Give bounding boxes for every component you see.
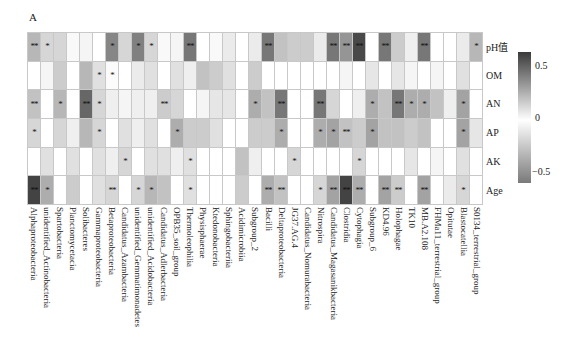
panel-label: A bbox=[29, 11, 37, 23]
heatmap-cell bbox=[223, 90, 235, 118]
heatmap-cell bbox=[470, 176, 482, 204]
heatmap-cell: * bbox=[41, 176, 53, 204]
heatmap-cell bbox=[67, 176, 79, 204]
heatmap-cell: * bbox=[314, 176, 326, 204]
heatmap-cell: ** bbox=[353, 176, 365, 204]
heatmap-cell bbox=[418, 119, 430, 147]
heatmap-cell bbox=[288, 119, 300, 147]
heatmap-cell bbox=[197, 33, 209, 61]
heatmap-grid: ****************************************… bbox=[27, 32, 483, 205]
heatmap-cell bbox=[327, 148, 339, 176]
heatmap-cell bbox=[262, 148, 274, 176]
heatmap-cell: ** bbox=[340, 33, 352, 61]
heatmap-cell bbox=[444, 62, 456, 90]
heatmap-cell: ** bbox=[327, 33, 339, 61]
column-label: Subgroup_2 bbox=[248, 207, 261, 327]
heatmap-cell bbox=[366, 62, 378, 90]
heatmap-cell bbox=[444, 90, 456, 118]
heatmap-cell bbox=[119, 176, 131, 204]
heatmap-cell: * bbox=[106, 33, 118, 61]
heatmap-cell: * bbox=[145, 176, 157, 204]
heatmap-cell bbox=[80, 119, 92, 147]
column-label: Ktedonobacteria bbox=[209, 207, 222, 327]
heatmap-cell bbox=[366, 33, 378, 61]
heatmap-cell bbox=[132, 148, 144, 176]
column-label: KD4.96 bbox=[379, 207, 392, 327]
heatmap-cell bbox=[67, 62, 79, 90]
heatmap-cell: ** bbox=[28, 90, 40, 118]
heatmap-cell bbox=[210, 176, 222, 204]
heatmap-cell bbox=[431, 148, 443, 176]
heatmap-cell bbox=[301, 90, 313, 118]
heatmap-cell bbox=[54, 148, 66, 176]
heatmap-cell bbox=[327, 90, 339, 118]
heatmap-cell bbox=[80, 62, 92, 90]
column-label: Clostridia bbox=[340, 207, 353, 327]
heatmap-cell: * bbox=[249, 90, 261, 118]
heatmap-cell bbox=[41, 119, 53, 147]
heatmap-cell bbox=[132, 119, 144, 147]
heatmap-cell bbox=[431, 90, 443, 118]
heatmap-cell bbox=[119, 62, 131, 90]
heatmap-cell bbox=[236, 90, 248, 118]
heatmap-cell bbox=[314, 62, 326, 90]
heatmap-cell bbox=[353, 119, 365, 147]
heatmap-cell bbox=[249, 176, 261, 204]
heatmap-cell bbox=[275, 62, 287, 90]
heatmap-cell bbox=[444, 148, 456, 176]
heatmap-cell bbox=[470, 90, 482, 118]
heatmap-cell bbox=[353, 90, 365, 118]
heatmap-cell bbox=[431, 33, 443, 61]
heatmap-cell: * bbox=[41, 33, 53, 61]
heatmap-cell: ** bbox=[28, 33, 40, 61]
heatmap-cell bbox=[28, 62, 40, 90]
heatmap-cell bbox=[340, 90, 352, 118]
heatmap-cell: ** bbox=[392, 90, 404, 118]
heatmap-cell: * bbox=[288, 148, 300, 176]
heatmap-cell bbox=[54, 176, 66, 204]
heatmap-cell: * bbox=[171, 119, 183, 147]
column-label: OPB35_soil_group bbox=[170, 207, 183, 327]
heatmap-cell bbox=[119, 90, 131, 118]
heatmap-cell bbox=[80, 33, 92, 61]
heatmap-cell bbox=[145, 90, 157, 118]
heatmap-cell: * bbox=[93, 119, 105, 147]
column-label: JG37.AG.4 bbox=[288, 207, 301, 327]
heatmap-cell bbox=[132, 90, 144, 118]
heatmap-cell bbox=[431, 176, 443, 204]
heatmap-cell bbox=[171, 90, 183, 118]
heatmap-cell bbox=[197, 62, 209, 90]
heatmap-cell bbox=[444, 119, 456, 147]
heatmap-cell bbox=[288, 90, 300, 118]
heatmap-cell bbox=[236, 176, 248, 204]
column-label: Candidatus_Nomurabacteria bbox=[301, 207, 314, 327]
heatmap-cell bbox=[197, 90, 209, 118]
heatmap-cell bbox=[288, 176, 300, 204]
heatmap-cell: * bbox=[132, 33, 144, 61]
heatmap-cell: ** bbox=[340, 119, 352, 147]
heatmap-cell: * bbox=[366, 90, 378, 118]
heatmap-cell: * bbox=[457, 119, 469, 147]
heatmap-cell bbox=[379, 148, 391, 176]
heatmap-cell bbox=[405, 33, 417, 61]
heatmap-cell bbox=[80, 148, 92, 176]
heatmap-cell bbox=[171, 176, 183, 204]
heatmap-cell: * bbox=[184, 148, 196, 176]
heatmap-cell: * bbox=[275, 119, 287, 147]
heatmap-cell bbox=[288, 33, 300, 61]
heatmap-cell bbox=[249, 119, 261, 147]
heatmap-cell bbox=[418, 148, 430, 176]
heatmap-cell: * bbox=[93, 90, 105, 118]
heatmap-cell bbox=[275, 148, 287, 176]
heatmap-cell bbox=[405, 119, 417, 147]
heatmap-cell: * bbox=[470, 33, 482, 61]
heatmap-cell bbox=[41, 90, 53, 118]
heatmap-cell: ** bbox=[262, 176, 274, 204]
heatmap-cell bbox=[249, 148, 261, 176]
heatmap-cell: * bbox=[314, 119, 326, 147]
heatmap-cell bbox=[262, 90, 274, 118]
heatmap-cell bbox=[236, 33, 248, 61]
column-label: Cytophagia bbox=[353, 207, 366, 327]
heatmap-cell bbox=[353, 62, 365, 90]
heatmap-cell: ** bbox=[314, 90, 326, 118]
